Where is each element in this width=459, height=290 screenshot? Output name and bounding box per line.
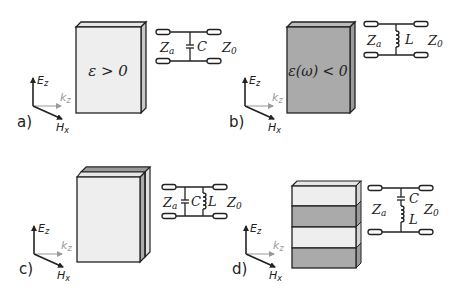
equivalent-circuit: Za C L Z0 xyxy=(162,185,242,219)
metal-slab: ε(ω) < 0 xyxy=(287,22,355,113)
component-label: C xyxy=(191,194,201,209)
svg-text:Ez: Ez xyxy=(250,222,262,236)
svg-text:Z0: Z0 xyxy=(423,202,439,218)
panel-label: a) xyxy=(17,113,32,131)
svg-text:kz: kz xyxy=(273,239,284,253)
svg-text:Ez: Ez xyxy=(38,222,50,236)
h-axis-label: H xyxy=(56,121,64,134)
inductor-icon xyxy=(203,187,206,216)
svg-text:kz: kz xyxy=(61,239,72,253)
component-label: L xyxy=(207,194,217,209)
material-text: ε > 0 xyxy=(88,62,128,80)
material-text: ε(ω) < 0 xyxy=(288,63,347,79)
inductor-icon xyxy=(396,24,399,55)
svg-text:Z0: Z0 xyxy=(226,195,242,211)
panel-label: c) xyxy=(19,260,33,278)
component-label: C xyxy=(409,191,419,206)
striped-slab xyxy=(292,181,361,268)
svg-text:Hx: Hx xyxy=(57,269,70,283)
metamaterial-diagram: Ez kz Hx a) ε > 0 Za C xyxy=(0,0,459,290)
component-label: C xyxy=(197,39,207,54)
dielectric-slab: ε > 0 xyxy=(76,22,146,113)
svg-text:Hx: Hx xyxy=(269,269,282,283)
capacitor-icon xyxy=(186,32,194,61)
svg-text:kz: kz xyxy=(272,91,283,105)
axes-icon: Ez kz Hx xyxy=(34,222,72,283)
svg-text:Za: Za xyxy=(366,33,381,49)
svg-text:Ez: Ez xyxy=(249,74,261,88)
svg-text:Ez: Ez xyxy=(37,74,49,88)
axes-icon: Ez kz Hx xyxy=(246,222,284,283)
axes-icon: Ez kz Hx xyxy=(245,74,283,135)
svg-text:Za: Za xyxy=(162,195,177,211)
panel-c: Ez kz Hx c) xyxy=(19,167,242,283)
panel-a: Ez kz Hx a) ε > 0 Za C xyxy=(17,22,237,135)
svg-text:Z0: Z0 xyxy=(427,33,443,49)
svg-text:Hx: Hx xyxy=(56,121,69,135)
svg-text:Z0: Z0 xyxy=(221,40,237,56)
equivalent-circuit: Za C Z0 xyxy=(156,30,237,64)
svg-text:Hx: Hx xyxy=(268,121,281,135)
capacitor-icon xyxy=(397,188,405,206)
component-label: L xyxy=(404,32,414,47)
equivalent-circuit: Za C L Z0 xyxy=(368,186,439,235)
svg-text:kz: kz xyxy=(60,91,71,105)
axes-icon: Ez kz Hx xyxy=(33,74,71,135)
equivalent-circuit: Za L Z0 xyxy=(364,22,443,58)
svg-text:Za: Za xyxy=(371,202,386,218)
layered-slab xyxy=(77,167,150,262)
e-axis-label: E xyxy=(37,74,44,87)
capacitor-icon xyxy=(181,187,189,216)
panel-label: b) xyxy=(229,113,244,131)
panel-b: Ez kz Hx b) ε(ω) < 0 Za L Z0 xyxy=(229,22,443,136)
component-label: L xyxy=(408,212,418,227)
panel-d: Ez kz Hx d) xyxy=(232,181,439,283)
panel-label: d) xyxy=(232,260,247,278)
inductor-icon xyxy=(401,206,404,232)
svg-text:Za: Za xyxy=(159,40,174,56)
